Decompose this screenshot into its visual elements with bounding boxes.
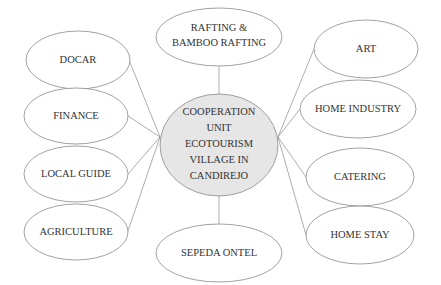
ecotourism-cooperation-diagram: COOPERATION UNIT ECOTOURISM VILLAGE IN C…: [0, 0, 441, 285]
node-art-label: ART: [356, 43, 377, 54]
node-art: ART: [314, 20, 418, 78]
node-docar-label: DOCAR: [60, 54, 97, 65]
center-label-line-1: COOPERATION: [183, 106, 256, 117]
center-label-line-4: VILLAGE IN: [189, 154, 249, 165]
node-agriculture-label: AGRICULTURE: [39, 226, 112, 237]
node-home-stay: HOME STAY: [306, 206, 414, 264]
connector-catering: [278, 137, 306, 177]
connector-home-stay: [278, 137, 306, 235]
node-finance: FINANCE: [24, 88, 128, 144]
node-local-guide-label: LOCAL GUIDE: [41, 168, 111, 179]
node-home-industry: HOME INDUSTRY: [300, 80, 416, 138]
node-agriculture: AGRICULTURE: [24, 204, 128, 260]
node-rafting: RAFTING & BAMBOO RAFTING: [156, 8, 282, 66]
node-home-stay-label: HOME STAY: [330, 229, 390, 240]
connector-docar: [129, 60, 160, 137]
node-sepeda-ontel-label: SEPEDA ONTEL: [181, 247, 257, 258]
node-catering-label: CATERING: [334, 171, 386, 182]
connector-home-industry: [278, 109, 300, 137]
node-home-industry-label: HOME INDUSTRY: [315, 103, 401, 114]
node-local-guide: LOCAL GUIDE: [24, 146, 128, 202]
node-finance-label: FINANCE: [53, 110, 99, 121]
connector-agriculture: [128, 137, 160, 231]
center-label-line-3: ECOTOURISM: [185, 138, 254, 149]
node-catering: CATERING: [306, 148, 414, 206]
connector-finance: [128, 116, 160, 137]
node-docar: DOCAR: [26, 31, 130, 89]
connector-local-guide: [128, 137, 160, 174]
node-sepeda-ontel: SEPEDA ONTEL: [156, 224, 282, 282]
center-label-line-5: CANDIREJO: [190, 170, 249, 181]
node-rafting-label-line-2: BAMBOO RAFTING: [172, 37, 267, 48]
center-node: COOPERATION UNIT ECOTOURISM VILLAGE IN C…: [160, 94, 278, 196]
node-rafting-label-line-1: RAFTING &: [191, 22, 247, 33]
center-label-line-2: UNIT: [206, 122, 232, 133]
